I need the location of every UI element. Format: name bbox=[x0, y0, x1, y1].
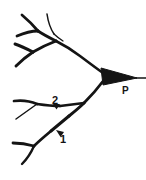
marker-label-2: 2 bbox=[52, 95, 58, 106]
soma-label-p: P bbox=[122, 86, 129, 96]
marker-label-1: 1 bbox=[60, 134, 66, 145]
neuron-figure: P 1 2 bbox=[0, 0, 146, 180]
